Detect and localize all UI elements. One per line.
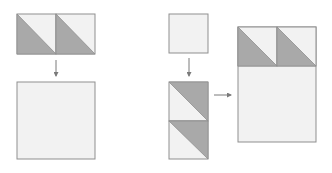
result-block xyxy=(238,27,316,142)
small-plain-square xyxy=(169,14,208,53)
left-plain-square xyxy=(17,82,95,159)
left-hst-pair xyxy=(17,14,95,54)
vertical-hst-pair xyxy=(169,82,208,159)
diagram-canvas xyxy=(0,0,332,173)
